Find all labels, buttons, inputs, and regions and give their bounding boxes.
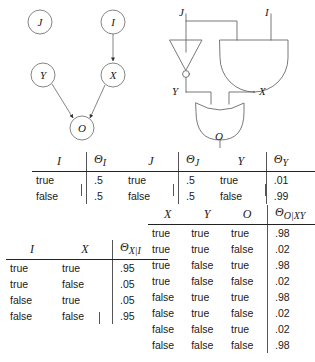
th-var-J: J <box>124 152 179 172</box>
bn-node-label-J: J <box>27 9 53 35</box>
cell-var: false <box>187 337 227 353</box>
cell-var: false <box>227 241 267 257</box>
cpt-theta-x-given-i-rule-tail <box>99 312 100 324</box>
table-header-row: I X ΘX|I <box>6 240 168 260</box>
cell-var: false <box>58 308 113 324</box>
table-row: false false true .02 <box>148 321 315 337</box>
cell-var: false <box>227 337 267 353</box>
cell-var: true <box>58 292 113 308</box>
cell-var: true <box>148 257 187 273</box>
bn-node-label-Y: Y <box>30 62 56 88</box>
table-row: false .5 <box>124 188 230 204</box>
cell-var: true <box>227 289 267 305</box>
circuit-label-X: X <box>259 85 266 97</box>
logic-circuit-svg <box>160 0 315 148</box>
circuit-label-J: J <box>179 6 184 18</box>
table-row: true .5 <box>32 172 138 189</box>
cell-prob: .98 <box>268 289 315 305</box>
cell-var: false <box>148 289 187 305</box>
logic-circuit-diagram: J I Y X O <box>160 0 315 148</box>
cell-var: false <box>216 188 266 204</box>
bayesian-network-diagram: J I Y X O <box>0 0 160 148</box>
cpt-theta-y-rule-tail <box>265 184 266 196</box>
cell-var: false <box>148 337 187 353</box>
th-var-Y: Y <box>216 152 266 172</box>
cell-var: true <box>124 172 179 189</box>
theta-symbol: Θ <box>275 205 284 219</box>
cell-var: false <box>148 321 187 337</box>
theta-symbol: Θ <box>94 152 103 166</box>
table-row: false false .95 <box>6 308 168 324</box>
wire-J-branch <box>186 21 237 40</box>
cpt-theta-x-given-i: I X ΘX|I true true .95 true false .05 fa… <box>6 240 168 324</box>
table-row: false true true .98 <box>148 289 315 305</box>
bn-node-label-O: O <box>69 115 95 141</box>
cell-var: true <box>148 241 187 257</box>
cell-var: false <box>124 188 179 204</box>
cpt-theta-i: I ΘI true .5 false .5 <box>32 152 138 204</box>
cell-var: false <box>6 292 58 308</box>
bn-node-label-I: I <box>100 9 126 35</box>
cell-var: true <box>187 305 227 321</box>
wire-X <box>229 92 254 104</box>
table-row: false false false .98 <box>148 337 315 353</box>
table-header-row: X Y O ΘO|XY <box>148 205 315 225</box>
circuit-label-I: I <box>265 6 269 18</box>
table-row: true true true .98 <box>148 225 315 242</box>
theta-symbol: Θ <box>186 152 195 166</box>
cpt-theta-j-rule-tail <box>173 184 174 196</box>
cell-var: true <box>187 225 227 242</box>
cell-prob: .02 <box>268 305 315 321</box>
wire-Y <box>186 92 211 104</box>
cell-prob: .02 <box>268 273 315 289</box>
table-row: true false false .02 <box>148 273 315 289</box>
cell-var: false <box>227 273 267 289</box>
cell-var: false <box>227 305 267 321</box>
table-row: true false true .98 <box>148 257 315 273</box>
cell-prob: .98 <box>268 257 315 273</box>
th-prob-theta-y: ΘY <box>266 152 315 172</box>
theta-subscript: X|I <box>129 245 141 256</box>
cell-var: false <box>187 257 227 273</box>
bn-node-label-X: X <box>100 62 126 88</box>
cell-var: true <box>32 172 87 189</box>
table-row: true true .95 <box>6 260 168 277</box>
cell-var: true <box>227 321 267 337</box>
table-row: false true false .02 <box>148 305 315 321</box>
cell-prob: .02 <box>268 321 315 337</box>
circuit-label-Y: Y <box>172 85 178 97</box>
cell-var: true <box>227 225 267 242</box>
table-header-row: J ΘJ <box>124 152 230 172</box>
table-row: true true false .02 <box>148 241 315 257</box>
cell-var: true <box>187 241 227 257</box>
cell-var: true <box>187 289 227 305</box>
theta-subscript: Y <box>282 157 288 168</box>
cpt-theta-i-rule-tail <box>81 184 82 196</box>
cell-var: false <box>187 321 227 337</box>
cell-var: true <box>58 260 113 277</box>
cell-prob: .99 <box>266 188 315 204</box>
table-header-row: Y ΘY <box>216 152 315 172</box>
cell-prob: .02 <box>268 241 315 257</box>
cell-var: true <box>216 172 266 189</box>
theta-subscript: J <box>195 157 199 168</box>
cell-prob: .98 <box>268 337 315 353</box>
th-var-X: X <box>58 240 113 260</box>
cell-prob: .98 <box>268 225 315 242</box>
cell-var: true <box>6 276 58 292</box>
theta-subscript: O|XY <box>284 210 306 221</box>
table-header-row: I ΘI <box>32 152 138 172</box>
theta-subscript: I <box>103 157 106 168</box>
cell-var: false <box>187 273 227 289</box>
and-gate-body <box>220 40 288 92</box>
table-row: false .5 <box>32 188 138 204</box>
cell-var: false <box>32 188 87 204</box>
not-gate-bubble <box>183 71 190 78</box>
cell-var: true <box>148 225 187 242</box>
circuit-label-O: O <box>215 130 223 142</box>
th-var-I: I <box>6 240 58 260</box>
cell-var: false <box>148 305 187 321</box>
table-row: true false .05 <box>6 276 168 292</box>
cpt-theta-y: Y ΘY true .01 false .99 <box>216 152 315 204</box>
cell-var: true <box>227 257 267 273</box>
